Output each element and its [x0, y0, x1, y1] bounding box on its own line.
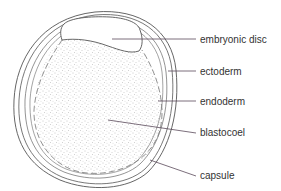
label-blastocoel: blastocoel: [200, 127, 245, 139]
label-embryonic-disc: embryonic disc: [200, 34, 267, 46]
label-capsule: capsule: [200, 170, 234, 182]
label-endoderm: endoderm: [200, 96, 245, 108]
blastocyst-diagram: embryonic disc ectoderm endoderm blastoc…: [0, 0, 281, 191]
label-ectoderm: ectoderm: [200, 66, 242, 78]
